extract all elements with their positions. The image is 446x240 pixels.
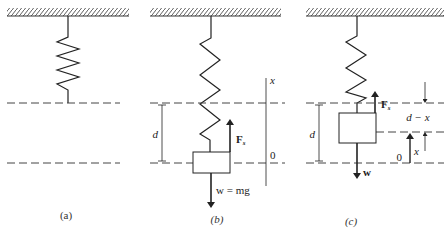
spring-mass-diagram: (a) d Fs w = mg x 0 (b) d Fs <box>0 0 446 240</box>
panel-a: (a) <box>7 8 129 222</box>
d-minus-x-label: d − x <box>406 111 429 123</box>
d-label: d <box>310 128 316 140</box>
caption-b: (b) <box>211 213 224 226</box>
weight-label: w = mg <box>216 184 250 196</box>
d-label: d <box>153 128 159 140</box>
caption-c: (c) <box>345 215 358 228</box>
spring <box>346 16 366 113</box>
x-label: x <box>413 145 419 157</box>
mass-block <box>193 152 230 173</box>
weight-label: w <box>363 166 371 178</box>
spring <box>57 16 79 103</box>
mass-block <box>339 113 376 143</box>
panel-c: d Fs w d − x x 0 (c) <box>306 8 444 228</box>
ceiling-hatch <box>150 8 281 16</box>
origin-label: 0 <box>397 151 403 163</box>
spring-force-label: Fs <box>381 98 391 112</box>
origin-label: 0 <box>270 149 276 161</box>
ceiling-hatch <box>7 8 129 16</box>
caption-a: (a) <box>60 209 73 222</box>
panel-b: d Fs w = mg x 0 (b) <box>150 8 285 226</box>
x-axis-label: x <box>269 74 275 86</box>
spring <box>200 16 220 152</box>
ceiling-hatch <box>306 8 444 16</box>
spring-force-label: Fs <box>236 133 246 147</box>
